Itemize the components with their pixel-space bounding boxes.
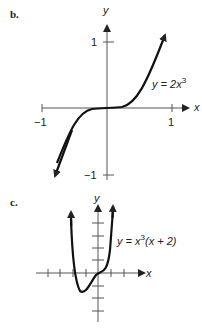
plots	[0, 0, 202, 328]
panel-c-axes	[36, 206, 144, 322]
panel-c-curve	[71, 210, 113, 292]
panel-b-curve	[57, 35, 165, 163]
panel-b-axes	[42, 26, 188, 180]
